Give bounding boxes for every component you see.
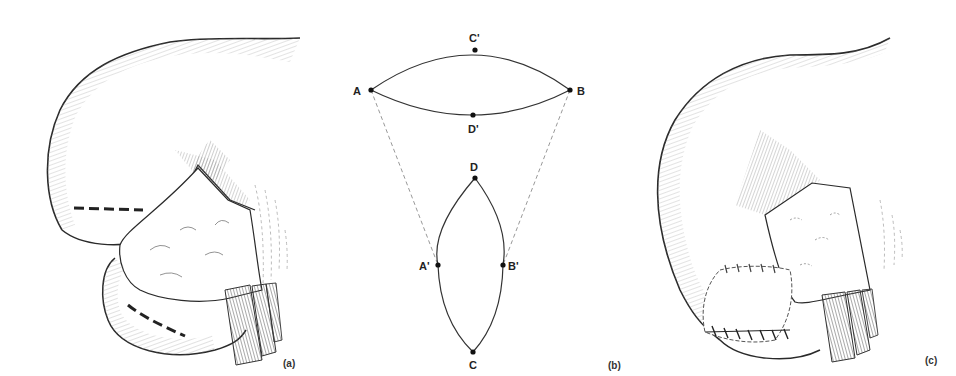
point-label-d: D	[470, 161, 478, 173]
figure: (a) A B C' D' D A' B' C (b)	[0, 0, 956, 376]
panel-c-illustration	[658, 38, 903, 362]
point-label-b: B	[577, 85, 585, 97]
point-label-a-prime: A'	[419, 260, 430, 272]
point-label-c-prime: C'	[469, 32, 480, 44]
point-label-c: C	[469, 359, 477, 371]
panel-c-label: (c)	[925, 355, 937, 366]
point-label-b-prime: B'	[508, 260, 519, 272]
panel-a-label: (a)	[283, 358, 295, 369]
point-label-a: A	[353, 85, 361, 97]
panel-a-illustration	[47, 38, 300, 365]
figure-canvas: (a) A B C' D' D A' B' C (b)	[0, 0, 956, 376]
panel-b-diagram	[368, 47, 572, 354]
point-label-d-prime: D'	[468, 123, 479, 135]
panel-b-label: (b)	[608, 360, 621, 371]
